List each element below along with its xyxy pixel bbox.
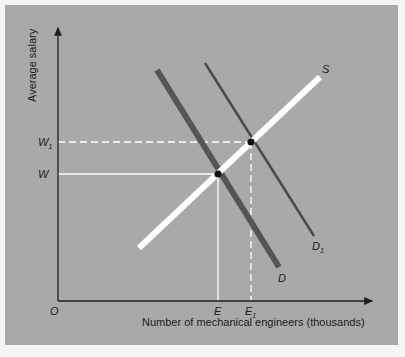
- origin-label: O: [50, 305, 59, 317]
- x-tick-e1: E1: [245, 305, 256, 319]
- demand-label-d1: D1: [312, 240, 324, 254]
- y-axis-label: Average salary: [26, 28, 38, 102]
- demand-curve-d1: [205, 63, 314, 236]
- chart-svg: Average salary Number of mechanical engi…: [0, 0, 405, 357]
- y-tick-w: W: [38, 168, 50, 180]
- demand-label-d: D: [278, 272, 286, 284]
- equilibrium-point-initial: [214, 170, 221, 177]
- y-tick-w1: W1: [38, 136, 52, 150]
- equilibrium-point-new: [247, 138, 254, 145]
- supply-label-s: S: [322, 63, 330, 75]
- x-tick-e: E: [214, 305, 222, 317]
